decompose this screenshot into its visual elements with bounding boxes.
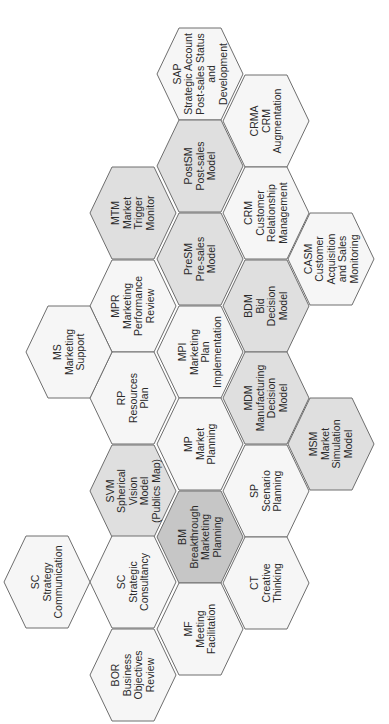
hexagon-label-line: Review xyxy=(144,288,156,323)
hexagon-label-line: Vision xyxy=(127,477,139,506)
hexagon-label-line: Manufacturing xyxy=(254,365,266,432)
hexagon-label-line: Strategic xyxy=(127,561,139,602)
hexagon-label-line: MSM xyxy=(307,432,319,457)
hexagon-label-line: Plan xyxy=(199,341,211,362)
hexagon-label-line: Objectives xyxy=(132,650,144,699)
hexagon-label-line: Resources xyxy=(127,373,139,423)
hexagon-label-line: Model xyxy=(205,152,217,181)
hexagon-label-line: Planning xyxy=(271,470,283,511)
hexagon-label-line: Planning xyxy=(211,516,223,557)
hexagon-label-line: Decision xyxy=(265,378,277,418)
hexagon-label-line: Market xyxy=(319,428,331,460)
hexagon-label-line: CT xyxy=(248,575,260,590)
hexagon-label-line: (Publics Map) xyxy=(150,459,162,523)
hexagon-label-line: BM xyxy=(176,529,188,545)
hexagon-label-line: Acquisition xyxy=(325,233,337,284)
hexagon-label-line: BDM xyxy=(242,294,254,317)
hexagon-label-line: Facilitation xyxy=(205,604,217,654)
hexagon-label-line: Pre-sales xyxy=(194,237,206,281)
hexagon-label-line: Communication xyxy=(52,545,64,618)
hexagon-label-line: CASM xyxy=(302,244,314,274)
hexagon-label-line: Marketing xyxy=(63,329,75,375)
hexagon-label-line: Business xyxy=(121,654,133,697)
hexagon-label-line: Monitoring xyxy=(348,234,360,283)
hexagon-label-line: Consultancy xyxy=(138,552,150,611)
hexagon-label-line: PostSM xyxy=(182,148,194,185)
hexagon-label-line: Scenario xyxy=(260,470,272,512)
hexagon-label-line: Thinking xyxy=(271,563,283,603)
hexagon-label-line: Model xyxy=(277,292,289,321)
hexagon-label-line: Marketing xyxy=(121,283,133,329)
hexagon-label-line: Trigger xyxy=(132,196,144,229)
hexagon-label-line: SC xyxy=(115,574,127,589)
hexagon-label-line: Breakthrough xyxy=(188,505,200,568)
hexagon-diagram: SAPStrategic AccountPost-sales Statusand… xyxy=(0,0,389,724)
hexagon-label-line: BOR xyxy=(109,663,121,686)
hexagon-label-line: Model xyxy=(205,245,217,274)
hexagon-label-line: Customer xyxy=(254,190,266,236)
hexagon-label-line: Implementation xyxy=(211,316,223,388)
hexagon-label-line: Development xyxy=(217,43,229,105)
hexagon-label-line: Post-sales Status xyxy=(194,33,206,115)
hexagon-label-line: Strategy xyxy=(41,562,53,602)
hexagon-label-line: Marketing xyxy=(188,329,200,375)
hexagon-label-line: MPI xyxy=(176,343,188,362)
hexagon-label-line: SP xyxy=(248,484,260,498)
hexagon-label-line: SVM xyxy=(104,480,116,503)
hexagon-label-line: CRMA xyxy=(248,106,260,137)
hexagon-label-line: Market xyxy=(194,428,206,460)
hexagon-label-line: SC xyxy=(29,574,41,589)
hexagon-label-line: Model xyxy=(138,477,150,506)
hexagon-label-line: Customer xyxy=(313,236,325,282)
hexagon-label-line: MTM xyxy=(109,201,121,225)
hexagon-label-line: Model xyxy=(277,384,289,413)
hexagon-label-line: Post-sales xyxy=(194,141,206,190)
hexagon-label-line: Creative xyxy=(260,563,272,602)
hexagon-label-line: Planning xyxy=(205,423,217,464)
hexagon-label-line: and Sales xyxy=(336,236,348,283)
hexagon-label-line: CRM xyxy=(260,109,272,133)
hexagon-label-line: Model xyxy=(342,430,354,459)
hexagon-label-line: Review xyxy=(144,657,156,692)
hexagon-label-line: Market xyxy=(121,197,133,229)
hexagon-label-line: Support xyxy=(74,334,86,371)
hexagon-label-line: SAP xyxy=(171,63,183,84)
hexagon-label-line: Plan xyxy=(138,387,150,408)
hexagon-label-line: Meeting xyxy=(194,610,206,648)
hexagon-label-line: PreSM xyxy=(182,243,194,275)
hexagon-label-line: Marketing xyxy=(199,514,211,560)
hexagon-label-line: MF xyxy=(182,621,194,636)
hexagon-label-line: MDM xyxy=(242,385,254,410)
hexagon-label-line: and xyxy=(205,65,217,83)
hexagon-label-line: Spherical xyxy=(115,469,127,513)
hexagon-label-line: MPR xyxy=(109,294,121,318)
hexagon-label-line: Management xyxy=(277,182,289,243)
hexagon-label-line: Decision xyxy=(265,286,277,326)
hexagon-label-line: Strategic Account xyxy=(182,33,194,115)
hexagon-label-line: Relationship xyxy=(265,184,277,242)
hexagon-sc-comm: SCStrategyCommunication xyxy=(4,536,90,628)
hexagon-label-line: Performance xyxy=(132,276,144,336)
hexagon-label-line: Simulation xyxy=(330,419,342,468)
hexagon-label-line: Monitor xyxy=(144,195,156,231)
hexagon-label-line: RP xyxy=(115,391,127,406)
hexagon-label-line: MP xyxy=(182,436,194,452)
hexagon-label-line: Augmentation xyxy=(271,88,283,153)
hexagon-label-line: MS xyxy=(51,344,63,360)
hexagon-label-line: Bid xyxy=(254,298,266,313)
hexagon-label-line: CRM xyxy=(242,201,254,225)
